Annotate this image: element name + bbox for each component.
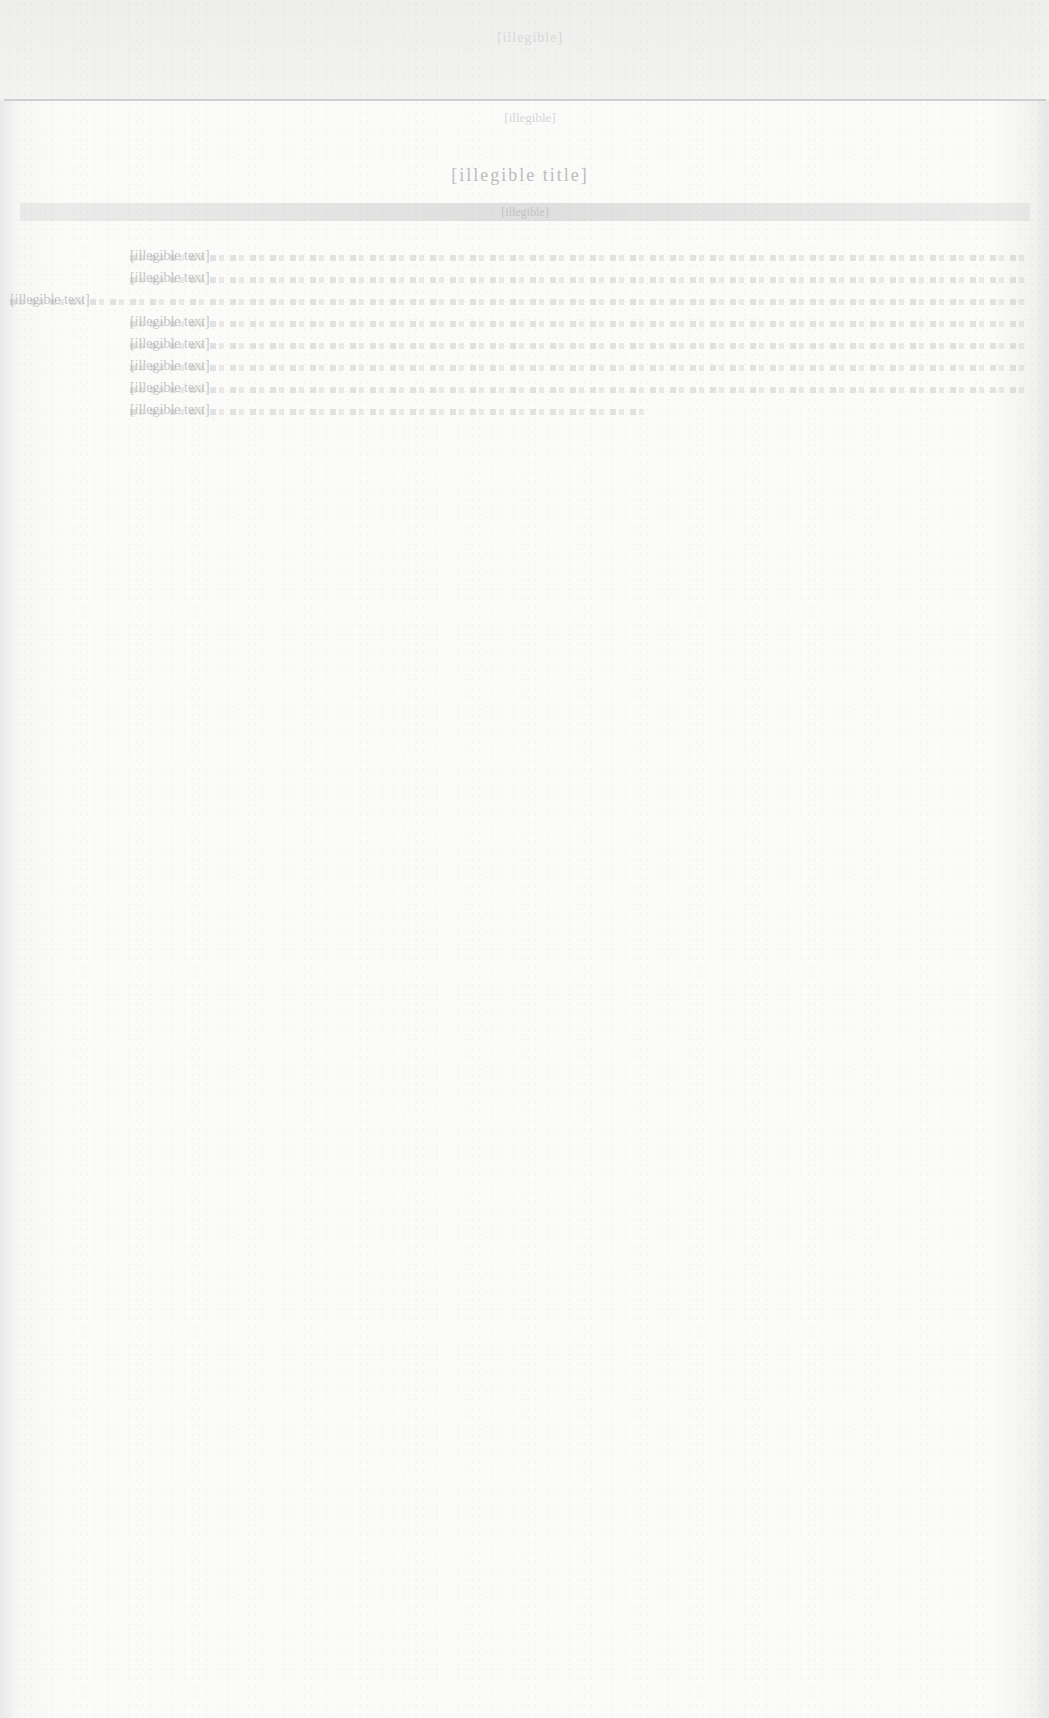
body-line: [illegible text] [130, 311, 1030, 333]
scanned-page: [illegible] [illegible] [illegible title… [0, 0, 1049, 1718]
document-title: [illegible title] [280, 165, 760, 186]
page-header: [illegible] [0, 0, 1049, 100]
body-line: [illegible text] [130, 399, 650, 421]
body-line: [illegible text] [130, 267, 1030, 289]
body-line: [illegible text] [130, 377, 1030, 399]
subheading: [illegible] [330, 110, 730, 126]
body-line: [illegible text] [130, 355, 1030, 377]
body-line: [illegible text] [130, 245, 1030, 267]
section-banner: [illegible] [20, 203, 1030, 221]
body-line: [illegible text] [130, 333, 1030, 355]
header-rule [4, 99, 1046, 101]
header-text: [illegible] [430, 30, 630, 46]
body-line: [illegible text] [10, 289, 1030, 311]
body-text: [illegible text] [illegible text] [illeg… [130, 245, 1030, 421]
